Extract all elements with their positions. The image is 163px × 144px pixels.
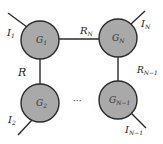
lead-i1 (8, 13, 27, 27)
ellipsis: ··· (73, 96, 82, 106)
lead-iN-1 (131, 113, 146, 128)
current-label-i2: I2 (7, 114, 16, 126)
edge-label-rN: RN (79, 25, 94, 37)
lead-i2 (18, 120, 32, 135)
current-label-i1: I1 (6, 27, 15, 39)
current-label-iN: IN (140, 18, 151, 30)
network-diagram: G1 GN G2 GN−1 RN R RN−1 I1 IN I2 IN−1 ··… (0, 0, 163, 144)
edge-label-r: R (17, 66, 26, 79)
edge-label-rN-1: RN−1 (136, 65, 158, 76)
current-label-iN-1: IN−1 (124, 124, 143, 136)
